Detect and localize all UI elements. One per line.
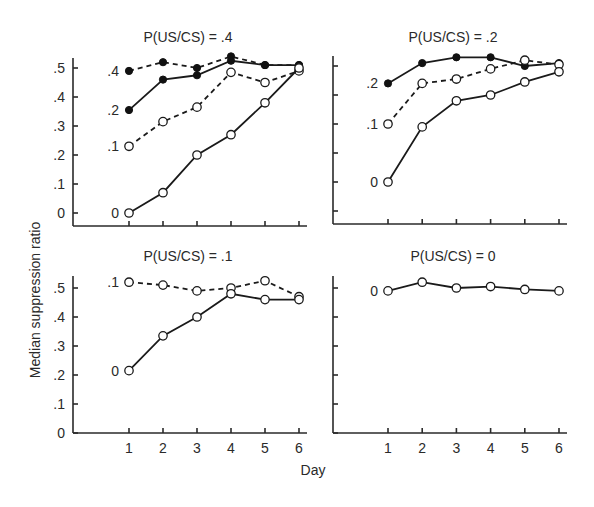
- data-point: [384, 80, 391, 87]
- data-point: [193, 103, 201, 111]
- data-point: [227, 68, 235, 76]
- data-point: [418, 278, 426, 286]
- data-point: [159, 281, 167, 289]
- data-point: [555, 68, 563, 76]
- series-line: [388, 72, 559, 182]
- y-tick-label: .3: [53, 118, 65, 134]
- panel-1: P(US/CS) = .40.1.2.3.4.5.4.2.10: [53, 29, 307, 226]
- data-point: [261, 295, 269, 303]
- data-point: [452, 75, 460, 83]
- x-tick-label: 3: [193, 440, 201, 456]
- suppression-ratio-chart: Median suppression ratio Day P(US/CS) = …: [0, 0, 594, 507]
- panel-title: P(US/CS) = 0: [410, 248, 495, 264]
- data-point: [261, 78, 269, 86]
- data-point: [453, 54, 460, 61]
- panels-group: P(US/CS) = .40.1.2.3.4.5.4.2.10P(US/CS) …: [53, 29, 567, 456]
- x-tick-label: 5: [521, 440, 529, 456]
- y-tick-label: .3: [53, 338, 65, 354]
- panel-2: P(US/CS) = .2.2.10: [333, 29, 567, 224]
- y-axis-label: Median suppression ratio: [27, 222, 43, 379]
- series-label: .1: [366, 116, 378, 132]
- series-0: 0: [111, 290, 303, 379]
- series-p1: .1: [107, 67, 303, 155]
- data-point: [521, 285, 529, 293]
- data-point: [261, 62, 268, 69]
- x-tick-label: 4: [487, 440, 495, 456]
- y-tick-label: .1: [53, 396, 65, 412]
- x-tick-label: 6: [295, 440, 303, 456]
- data-point: [193, 72, 200, 79]
- data-point: [521, 56, 529, 64]
- data-point: [384, 287, 392, 295]
- series-line: [129, 294, 299, 371]
- series-line: [129, 281, 299, 297]
- data-point: [486, 91, 494, 99]
- series-0: 0: [370, 278, 563, 299]
- series-line: [388, 282, 559, 291]
- data-point: [159, 332, 167, 340]
- series-line: [129, 71, 299, 146]
- data-point: [418, 79, 426, 87]
- y-tick-label: .5: [53, 280, 65, 296]
- data-point: [555, 287, 563, 295]
- data-point: [487, 54, 494, 61]
- data-point: [486, 282, 494, 290]
- y-tick-label: 0: [57, 205, 65, 221]
- data-point: [125, 67, 132, 74]
- data-point: [159, 59, 166, 66]
- y-tick-label: .2: [53, 367, 65, 383]
- x-tick-label: 5: [261, 440, 269, 456]
- data-point: [295, 295, 303, 303]
- series-p2: .2: [366, 54, 562, 92]
- data-point: [193, 313, 201, 321]
- data-point: [159, 117, 167, 125]
- data-point: [452, 284, 460, 292]
- data-point: [384, 178, 392, 186]
- x-tick-label: 4: [227, 440, 235, 456]
- series-line: [388, 60, 559, 124]
- data-point: [261, 99, 269, 107]
- x-tick-label: 6: [555, 440, 563, 456]
- data-point: [159, 189, 167, 197]
- data-point: [418, 123, 426, 131]
- y-tick-label: .2: [53, 147, 65, 163]
- series-label: 0: [111, 205, 119, 221]
- series-label: .4: [107, 63, 119, 79]
- panel-title: P(US/CS) = .4: [143, 29, 232, 45]
- data-point: [261, 277, 269, 285]
- x-tick-label: 1: [125, 440, 133, 456]
- panel-title: P(US/CS) = .1: [143, 248, 232, 264]
- data-point: [193, 64, 200, 71]
- y-tick-label: .4: [53, 89, 65, 105]
- y-tick-label: 0: [57, 425, 65, 441]
- data-point: [227, 290, 235, 298]
- data-point: [227, 131, 235, 139]
- series-label: .2: [366, 75, 378, 91]
- data-point: [193, 287, 201, 295]
- series-label: .1: [107, 274, 119, 290]
- panel-3: P(US/CS) = .10.1.2.3.4.5123456.10: [53, 248, 307, 456]
- data-point: [521, 78, 529, 86]
- data-point: [227, 57, 234, 64]
- series-label: .2: [107, 102, 119, 118]
- x-tick-label: 3: [453, 440, 461, 456]
- y-tick-label: .4: [53, 309, 65, 325]
- data-point: [486, 65, 494, 73]
- data-point: [125, 278, 133, 286]
- data-point: [295, 64, 303, 72]
- data-point: [125, 366, 133, 374]
- series-line: [129, 61, 299, 110]
- x-tick-label: 2: [418, 440, 426, 456]
- data-point: [125, 209, 133, 217]
- x-axis-label: Day: [301, 462, 326, 478]
- y-tick-label: .1: [53, 176, 65, 192]
- x-tick-label: 1: [384, 440, 392, 456]
- x-tick-label: 2: [159, 440, 167, 456]
- series-label: .1: [107, 138, 119, 154]
- data-point: [125, 106, 132, 113]
- data-point: [125, 142, 133, 150]
- series-0: 0: [370, 68, 563, 190]
- series-label: 0: [370, 174, 378, 190]
- series-p1: .1: [366, 56, 563, 132]
- data-point: [159, 76, 166, 83]
